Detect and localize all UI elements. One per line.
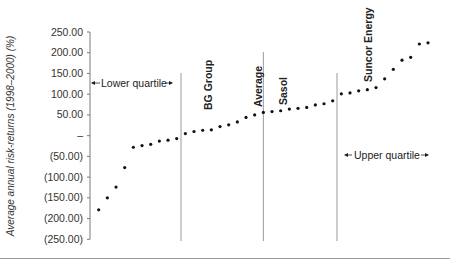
data-point (340, 92, 343, 95)
data-point (357, 89, 360, 92)
data-point (218, 125, 221, 128)
data-point (175, 137, 178, 140)
suncor-energy-label: Suncor Energy (362, 7, 374, 82)
bg-group-label: BG Group (202, 60, 214, 110)
y-axis-title: Average annual risk-returns (1998–2000) … (5, 36, 16, 237)
data-point (331, 99, 334, 102)
data-point (374, 86, 377, 89)
y-tick-label: 100.00 (51, 88, 83, 100)
data-point (314, 103, 317, 106)
data-point (158, 139, 161, 142)
data-point (366, 88, 369, 91)
data-point (210, 128, 213, 131)
data-point (201, 129, 204, 132)
data-point (348, 91, 351, 94)
y-axis: 250.00200.00150.00100.0050.00–(50.00)(10… (44, 26, 90, 245)
data-point (418, 42, 421, 45)
data-point (184, 132, 187, 135)
data-point (392, 68, 395, 71)
data-point (244, 116, 247, 119)
y-tick-label: – (77, 129, 83, 141)
average-label: Average (252, 66, 264, 107)
data-point (149, 143, 152, 146)
y-tick-label: (50.00) (50, 150, 83, 162)
data-point (383, 77, 386, 80)
lower-quartile-label: Lower quartile (91, 77, 173, 89)
svg-text:Upper quartile: Upper quartile (354, 149, 420, 161)
data-point (409, 56, 412, 59)
y-tick-label: (100.00) (44, 171, 83, 183)
data-point (279, 109, 282, 112)
y-tick-label: 200.00 (51, 46, 83, 58)
data-point (97, 208, 100, 211)
y-tick-label: 50.00 (57, 108, 83, 120)
y-tick-label: (200.00) (44, 212, 83, 224)
data-point (296, 107, 299, 110)
data-point (305, 106, 308, 109)
data-point (166, 139, 169, 142)
bottom-rule (0, 258, 450, 259)
data-point (114, 185, 117, 188)
data-point (270, 110, 273, 113)
scatter-chart: Average annual risk-returns (1998–2000) … (0, 0, 450, 260)
data-point (132, 146, 135, 149)
data-point (322, 102, 325, 105)
data-point (140, 144, 143, 147)
data-point (400, 59, 403, 62)
data-point (236, 120, 239, 123)
svg-text:Lower quartile: Lower quartile (101, 77, 167, 89)
data-point (106, 196, 109, 199)
data-point (253, 113, 256, 116)
y-tick-label: (150.00) (44, 191, 83, 203)
data-point (426, 41, 429, 44)
data-point (227, 123, 230, 126)
data-point (262, 111, 265, 114)
y-tick-label: (250.00) (44, 233, 83, 245)
y-tick-label: 150.00 (51, 67, 83, 79)
y-tick-label: 250.00 (51, 26, 83, 38)
data-point (123, 166, 126, 169)
data-point (288, 108, 291, 111)
upper-quartile-label: Upper quartile (344, 149, 429, 161)
data-point (192, 130, 195, 133)
sasol-label: Sasol (277, 77, 289, 105)
